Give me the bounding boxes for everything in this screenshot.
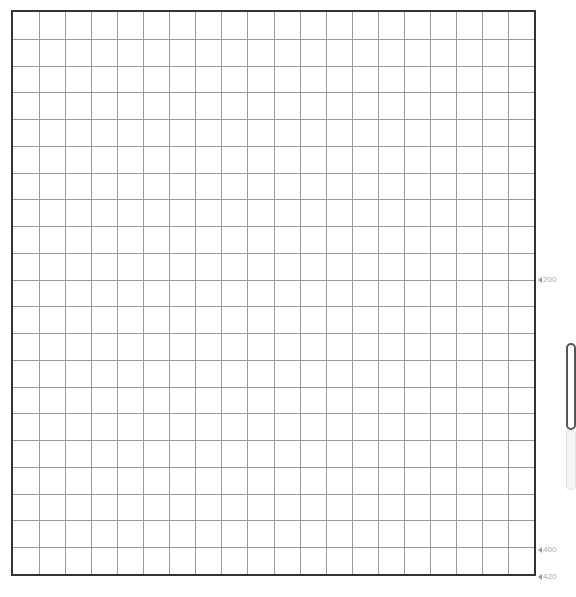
grid-horizontal-line	[13, 146, 534, 147]
grid-vertical-line	[65, 12, 66, 574]
side-panel-tab-active[interactable]	[566, 343, 576, 430]
grid-horizontal-line	[13, 387, 534, 388]
grid-vertical-line	[352, 12, 353, 574]
grid-vertical-line	[456, 12, 457, 574]
grid-vertical-line	[404, 12, 405, 574]
grid-vertical-line	[39, 12, 40, 574]
grid-horizontal-line	[13, 306, 534, 307]
grid-canvas[interactable]	[11, 10, 536, 576]
grid-vertical-line	[326, 12, 327, 574]
grid-horizontal-line	[13, 547, 534, 548]
grid-horizontal-line	[13, 333, 534, 334]
grid-vertical-line	[91, 12, 92, 574]
grid-horizontal-line	[13, 413, 534, 414]
grid-horizontal-line	[13, 39, 534, 40]
grid-horizontal-line	[13, 199, 534, 200]
grid-vertical-line	[247, 12, 248, 574]
grid-horizontal-line	[13, 173, 534, 174]
grid-vertical-line	[274, 12, 275, 574]
side-panel-tab-inactive[interactable]	[566, 430, 576, 490]
ruler-marker-label: 400	[543, 544, 556, 556]
grid-vertical-line	[117, 12, 118, 574]
grid-horizontal-line	[13, 494, 534, 495]
grid-vertical-line	[430, 12, 431, 574]
ruler-marker: 400	[538, 544, 556, 556]
grid-vertical-line	[482, 12, 483, 574]
grid-vertical-line	[300, 12, 301, 574]
grid-horizontal-line	[13, 92, 534, 93]
grid-horizontal-line	[13, 440, 534, 441]
grid-vertical-line	[195, 12, 196, 574]
grid-horizontal-line	[13, 467, 534, 468]
triangle-left-icon	[538, 277, 542, 283]
grid-vertical-line	[378, 12, 379, 574]
grid-horizontal-line	[13, 226, 534, 227]
grid-horizontal-line	[13, 520, 534, 521]
grid-vertical-line	[508, 12, 509, 574]
grid-horizontal-line	[13, 66, 534, 67]
ruler-marker: 200	[538, 274, 556, 286]
grid-horizontal-line	[13, 253, 534, 254]
grid-horizontal-line	[13, 119, 534, 120]
grid-vertical-line	[169, 12, 170, 574]
grid-vertical-line	[221, 12, 222, 574]
ruler-marker-label: 200	[543, 274, 556, 286]
triangle-left-icon	[538, 547, 542, 553]
ruler-marker-label: 420	[543, 571, 556, 583]
grid-vertical-line	[143, 12, 144, 574]
triangle-left-icon	[538, 574, 542, 580]
grid-horizontal-line	[13, 360, 534, 361]
grid-horizontal-line	[13, 280, 534, 281]
ruler-marker: 420	[538, 571, 556, 583]
